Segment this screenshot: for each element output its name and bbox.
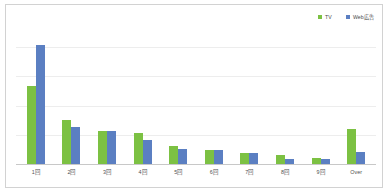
x-axis-tick-label: 9回: [303, 167, 339, 181]
x-axis-tick-label: 7回: [232, 167, 268, 181]
x-axis-tick-label: 4回: [125, 167, 161, 181]
bar-group: [232, 19, 268, 165]
x-axis-tick-label: 5回: [160, 167, 196, 181]
bar-group: [89, 19, 125, 165]
x-axis-tick-label: 6回: [196, 167, 232, 181]
x-axis-tick-label: 8回: [267, 167, 303, 181]
bar-group: [18, 19, 54, 165]
bar-web[interactable]: [214, 150, 223, 165]
bar-series-container: [16, 19, 376, 165]
bar-web[interactable]: [107, 131, 116, 165]
bar-tv[interactable]: [169, 146, 178, 165]
bar-tv[interactable]: [98, 131, 107, 165]
bar-web[interactable]: [178, 149, 187, 165]
bar-tv[interactable]: [27, 86, 36, 165]
bar-group: [303, 19, 339, 165]
bar-group: [125, 19, 161, 165]
x-axis-tick-label: Over: [338, 167, 374, 181]
x-axis-line: [16, 164, 376, 165]
bar-tv[interactable]: [347, 129, 356, 166]
bar-group: [196, 19, 232, 165]
x-axis-tick-label: 1回: [18, 167, 54, 181]
bar-tv[interactable]: [134, 133, 143, 165]
bar-web[interactable]: [143, 140, 152, 165]
bar-group: [54, 19, 90, 165]
bar-tv[interactable]: [205, 150, 214, 165]
bar-tv[interactable]: [62, 120, 71, 165]
plot-area: [16, 19, 376, 165]
bar-group: [267, 19, 303, 165]
chart-frame: TVWeb広告 1回2回3回4回5回6回7回8回9回Over: [5, 4, 383, 188]
bar-web[interactable]: [36, 45, 45, 165]
x-axis-tick-label: 2回: [54, 167, 90, 181]
bar-group: [160, 19, 196, 165]
x-axis-tick-label: 3回: [89, 167, 125, 181]
bar-web[interactable]: [71, 127, 80, 165]
bar-group: [338, 19, 374, 165]
x-axis-labels: 1回2回3回4回5回6回7回8回9回Over: [16, 167, 376, 181]
